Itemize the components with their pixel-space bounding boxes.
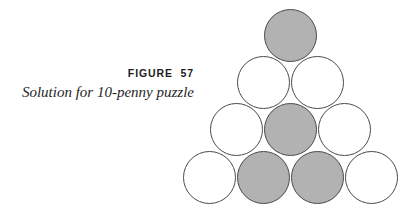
penny-10-empty: [345, 151, 398, 204]
penny-4-empty: [210, 103, 263, 156]
penny-5-shaded: [264, 103, 317, 156]
penny-8-shaded: [237, 151, 290, 204]
penny-6-empty: [318, 103, 371, 156]
figure-57: FIGURE 57 Solution for 10-penny puzzle: [0, 0, 418, 220]
penny-9-shaded: [291, 151, 344, 204]
penny-2-empty: [237, 56, 290, 109]
penny-3-empty: [291, 56, 344, 109]
penny-7-empty: [183, 151, 236, 204]
penny-1-shaded: [264, 9, 317, 62]
penny-triangle-diagram: [0, 0, 418, 220]
